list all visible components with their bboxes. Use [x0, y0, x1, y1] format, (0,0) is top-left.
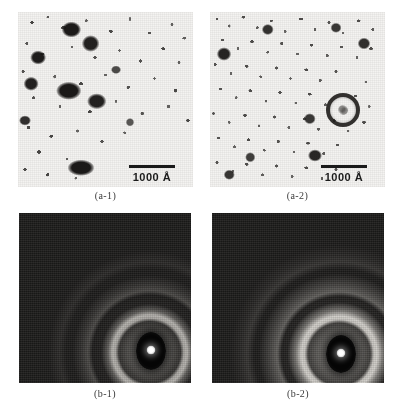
caption-a1: (a-1) [18, 190, 193, 201]
panel-a1-tem-micrograph: 1000 Å [18, 12, 193, 187]
scale-bar-label: 1000 Å [309, 171, 379, 183]
film-grain-overlay [212, 213, 384, 383]
caption-b2: (b-2) [212, 388, 384, 399]
beam-stop [326, 335, 356, 373]
scale-bar-line-icon [129, 165, 175, 168]
film-grain-overlay [210, 12, 385, 187]
transmitted-beam-spot [336, 349, 345, 358]
beam-stop [136, 332, 166, 370]
figure-root: 1000 Å (a-1) 1000 Å (a-2) (b-1) (b-2) [0, 0, 401, 418]
caption-a2: (a-2) [210, 190, 385, 201]
film-grain-overlay [18, 12, 193, 187]
panel-b1-diffraction-pattern [19, 213, 191, 383]
film-grain-overlay [19, 213, 191, 383]
panel-a2-tem-micrograph: 1000 Å [210, 12, 385, 187]
scale-bar-line-icon [321, 165, 367, 168]
scale-bar-a1: 1000 Å [117, 165, 187, 183]
transmitted-beam-spot [146, 345, 155, 354]
scale-bar-label: 1000 Å [117, 171, 187, 183]
caption-b1: (b-1) [19, 388, 191, 399]
panel-b2-diffraction-pattern [212, 213, 384, 383]
scale-bar-a2: 1000 Å [309, 165, 379, 183]
